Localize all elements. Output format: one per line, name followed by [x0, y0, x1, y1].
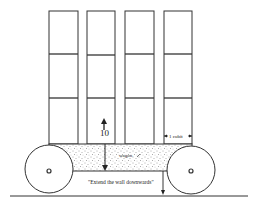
- right-wheel: [167, 146, 215, 194]
- wall-wagon-diagram: 10 1 cubit wagon "Extend the wall downwa…: [0, 0, 258, 210]
- wall-column-2: [87, 11, 115, 144]
- cubit-label: 1 cubit: [169, 134, 183, 139]
- wall-column-4: [164, 11, 192, 144]
- wall-column-1: [49, 11, 78, 144]
- caption-label: "Extend the wall downwards": [88, 179, 154, 185]
- wall-column-3: [125, 11, 154, 144]
- wall-columns: [49, 11, 192, 144]
- height-value-label: 10: [100, 128, 110, 138]
- extend-down-arrow-icon: [161, 171, 165, 195]
- wagon-label: wagon: [119, 153, 133, 158]
- left-wheel: [25, 145, 73, 193]
